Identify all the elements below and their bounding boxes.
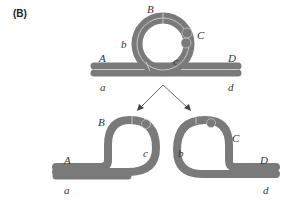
bottom-left-figure [56,116,156,176]
diagram-stage: (B) B b C c A D a d B c A a C b D d [0,0,295,203]
label-d-right: d [263,185,269,196]
label-C-top: C [197,30,204,41]
centromere-icon [182,28,192,38]
label-c-top: c [173,56,178,67]
label-b-right: b [178,148,184,159]
arrow-right-line [163,85,188,108]
label-c-left: c [143,148,148,159]
label-a-top: a [100,82,106,93]
label-D-top: D [228,53,236,64]
panel-label: (B) [13,8,27,19]
label-A-left: A [64,155,71,166]
arrow-left-line [140,85,163,108]
label-a-left: a [64,185,70,196]
label-C-right: C [232,133,239,144]
label-B-left: B [98,117,105,128]
label-A-top: A [99,53,106,64]
label-b-top: b [121,39,127,50]
label-B-top: B [147,4,154,15]
centromere-icon [142,120,151,129]
centromere-icon [207,119,216,128]
chromosome-loop-diagram [0,0,295,203]
top-figure [94,13,238,111]
left-chromatid [56,120,156,172]
label-D-right: D [260,155,268,166]
label-d-top: d [228,82,234,93]
centromere-icon [181,38,191,48]
